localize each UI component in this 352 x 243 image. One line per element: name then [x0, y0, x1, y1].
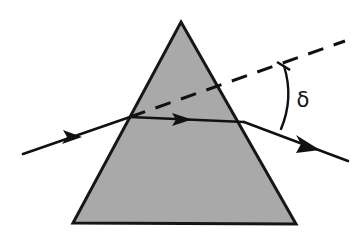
figure-root: δ: [0, 0, 352, 243]
prism-refraction-diagram: δ: [0, 0, 352, 243]
deviation-angle-label: δ: [297, 88, 310, 112]
